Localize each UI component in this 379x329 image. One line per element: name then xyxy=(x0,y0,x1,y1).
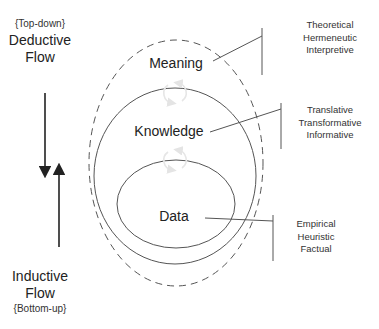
descriptor-interpretive: Interpretive xyxy=(284,44,376,57)
meaning-leader xyxy=(213,28,262,75)
deductive-flow-label: {Top-down} Deductive Flow xyxy=(0,18,80,66)
knowledge-label: Knowledge xyxy=(121,123,217,139)
inductive-qualifier: {Bottom-up} xyxy=(0,303,80,314)
inductive-title: Inductive xyxy=(0,268,80,285)
descriptor-theoretical: Theoretical xyxy=(284,19,376,32)
inductive-flow-label: Inductive Flow {Bottom-up} xyxy=(0,268,80,314)
inductive-title-flow: Flow xyxy=(0,285,80,302)
data-leader xyxy=(205,215,273,261)
cycle-arrow-icon-upper xyxy=(164,83,186,103)
deductive-qualifier: {Top-down} xyxy=(0,18,80,29)
descriptor-transformative: Transformative xyxy=(284,117,376,130)
knowledge-leader xyxy=(210,103,281,149)
meaning-descriptors: Theoretical Hermeneutic Interpretive xyxy=(284,19,376,57)
meaning-label: Meaning xyxy=(136,55,216,71)
data-descriptors: Empirical Heuristic Factual xyxy=(280,218,352,256)
deductive-title-flow: Flow xyxy=(0,49,80,66)
meaning-ellipse xyxy=(89,40,263,286)
data-ellipse xyxy=(117,160,235,248)
data-label: Data xyxy=(148,208,200,224)
knowledge-descriptors: Translative Transformative Informative xyxy=(284,104,376,142)
descriptor-empirical: Empirical xyxy=(280,218,352,231)
descriptor-hermeneutic: Hermeneutic xyxy=(284,32,376,45)
knowledge-ellipse xyxy=(94,88,256,264)
descriptor-factual: Factual xyxy=(280,243,352,256)
descriptor-translative: Translative xyxy=(284,104,376,117)
descriptor-heuristic: Heuristic xyxy=(280,231,352,244)
deductive-title: Deductive xyxy=(0,32,80,49)
descriptor-informative: Informative xyxy=(284,129,376,142)
